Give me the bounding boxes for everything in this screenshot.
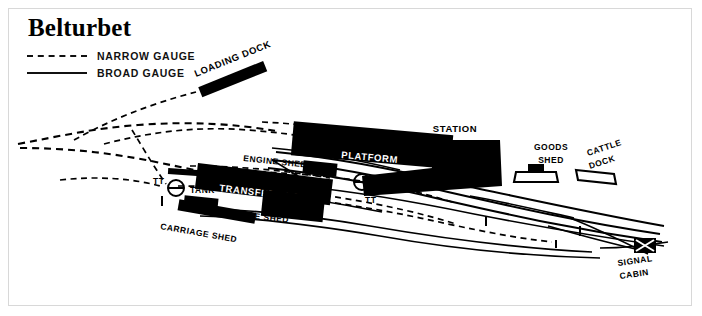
- goods-shed-label-line2: SHED: [538, 155, 564, 165]
- station-building-label-line1: STATION: [433, 123, 477, 134]
- carriage-shed-label: CARRIAGE SHED: [160, 221, 238, 244]
- turntable-west-label: TT: [153, 176, 165, 186]
- turntable-east-label: TT: [365, 195, 377, 205]
- tank-label: TANK: [190, 185, 215, 195]
- signal-cabin-symbol: [634, 238, 656, 253]
- narrow-gauge-track-loading-dock-spur: [74, 92, 196, 140]
- signal-cabin-label-line2: CABIN: [619, 267, 650, 281]
- narrow-gauge-track-west-upper: [18, 123, 276, 144]
- cattle-dock-building: [576, 170, 616, 184]
- turntable-west-symbol: [168, 180, 184, 196]
- goods-shed-label-line1: GOODS: [534, 142, 568, 152]
- turntable-east-symbol: [354, 174, 370, 190]
- narrow-gauge-track-tank-branch: [60, 178, 160, 186]
- station-building-label-line2: BUILDING: [430, 137, 481, 148]
- track-diagram: LOADING DOCK PLATFORM STATION BUILDING G…: [0, 0, 702, 316]
- broad-gauge-track-goods-loop: [470, 196, 574, 218]
- cattle-dock-label-line1: CATTLE: [586, 137, 623, 158]
- signal-cabin-label-line1: SIGNAL: [617, 253, 653, 268]
- goods-shed-building: [514, 164, 558, 182]
- broad-gauge-track-south-siding: [200, 216, 600, 258]
- diagram-page: Belturbet NARROW GAUGE BROAD GAUGE: [0, 0, 702, 316]
